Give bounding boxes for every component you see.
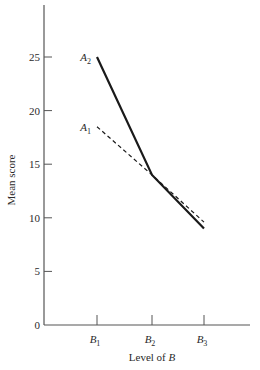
axes: 0510152025B1B2B3Level of BMean score	[5, 5, 250, 363]
series-lines	[97, 57, 204, 229]
x-tick-label: B2	[145, 333, 156, 348]
series-label-a1: A1	[79, 121, 91, 136]
x-tick-label: B3	[197, 333, 208, 348]
y-tick-label: 25	[29, 51, 41, 63]
series-label-a2: A2	[79, 51, 91, 66]
interaction-line-chart: 0510152025B1B2B3Level of BMean score A2A…	[0, 0, 260, 370]
y-axis-title: Mean score	[5, 154, 17, 205]
x-axis-title: Level of B	[129, 351, 176, 363]
y-tick-label: 10	[29, 212, 41, 224]
x-tick-label: B1	[90, 333, 101, 348]
labels: A2A1	[79, 51, 91, 136]
series-line-a1	[97, 127, 204, 222]
y-tick-label: 20	[29, 105, 41, 117]
y-tick-label: 15	[29, 158, 41, 170]
y-tick-label: 5	[35, 265, 41, 277]
series-line-a2	[97, 57, 204, 229]
y-tick-label: 0	[35, 319, 41, 331]
